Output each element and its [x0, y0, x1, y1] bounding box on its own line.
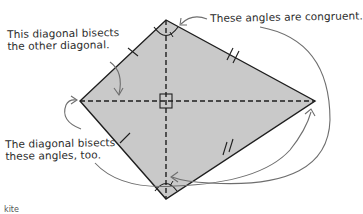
arrow-to-top-angle [181, 17, 207, 24]
annotation-bisects-diagonal: This diagonal bisects the other diagonal… [7, 26, 120, 52]
annotation-line: the other diagonal. [7, 38, 119, 52]
annotation-bisects-angles: The diagonal bisects these angles, too. [5, 136, 116, 162]
cut-off-caption: kite [4, 205, 19, 214]
annotation-line: these angles, too. [5, 148, 115, 162]
arrow-to-left-angle [65, 100, 81, 129]
